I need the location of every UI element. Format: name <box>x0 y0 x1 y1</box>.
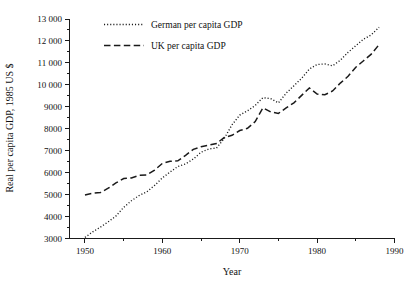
x-tick-label: 1980 <box>308 246 327 256</box>
legend-label-german: German per capita GDP <box>151 20 243 30</box>
chart-figure: 300040005000600070008000900010 00011 000… <box>0 0 413 285</box>
y-axis-title: Real per capita GDP, 1985 US $ <box>4 63 15 192</box>
y-tick-label: 11 000 <box>38 58 63 68</box>
legend-item-uk: UK per capita GDP <box>104 41 226 51</box>
y-axis-ticks <box>65 19 70 239</box>
y-tick-label: 12 000 <box>37 36 62 46</box>
x-axis-tick-labels: 19501960197019801990 <box>76 246 404 256</box>
x-axis: 19501960197019801990 Year <box>70 239 405 278</box>
y-tick-label: 6000 <box>44 168 63 178</box>
y-tick-label: 7000 <box>44 146 63 156</box>
x-axis-ticks <box>85 239 395 244</box>
y-tick-label: 9000 <box>44 102 63 112</box>
x-tick-label: 1960 <box>153 246 172 256</box>
x-tick-label: 1990 <box>386 246 405 256</box>
x-tick-label: 1970 <box>231 246 250 256</box>
series-line-german <box>85 27 379 237</box>
y-tick-label: 3000 <box>44 234 63 244</box>
chart-legend: German per capita GDP UK per capita GDP <box>104 20 243 51</box>
y-axis: 300040005000600070008000900010 00011 000… <box>4 14 70 244</box>
data-series-group <box>85 27 379 237</box>
legend-item-german: German per capita GDP <box>104 20 243 30</box>
y-tick-label: 10 000 <box>37 80 62 90</box>
y-axis-tick-labels: 300040005000600070008000900010 00011 000… <box>37 14 62 244</box>
y-tick-label: 8000 <box>44 124 63 134</box>
y-tick-label: 13 000 <box>37 14 62 24</box>
x-tick-label: 1950 <box>76 246 95 256</box>
x-axis-title: Year <box>223 266 242 277</box>
y-tick-label: 4000 <box>44 212 63 222</box>
series-line-uk <box>85 45 379 195</box>
y-tick-label: 5000 <box>44 190 63 200</box>
legend-label-uk: UK per capita GDP <box>151 41 226 51</box>
gdp-line-chart: 300040005000600070008000900010 00011 000… <box>0 0 413 285</box>
